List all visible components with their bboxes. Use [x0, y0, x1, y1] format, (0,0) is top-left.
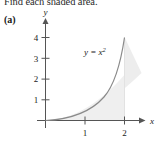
- curve-equation-exponent: 2: [103, 46, 107, 53]
- x-axis-label: x: [149, 116, 154, 126]
- x-axis-arrowhead: [139, 118, 146, 124]
- curve-equation-label: y = x2: [83, 46, 107, 58]
- y-tick-label-2: 2: [34, 74, 39, 84]
- area-under-curve-chart: 1 2 3 4 1 2 y x y = x2: [0, 0, 158, 143]
- y-tick-label-4: 4: [34, 33, 39, 43]
- x-tick-label-2: 2: [122, 128, 127, 138]
- y-axis-label: y: [43, 7, 48, 17]
- y-tick-label-3: 3: [34, 54, 39, 64]
- figure-page: Find each shaded area. (a) 1 2 3 4: [0, 0, 158, 143]
- y-tick-label-1: 1: [34, 95, 39, 105]
- y-axis-arrowhead: [43, 18, 49, 24]
- x-tick-label-1: 1: [83, 128, 88, 138]
- curve-equation-base: y = x: [83, 47, 103, 57]
